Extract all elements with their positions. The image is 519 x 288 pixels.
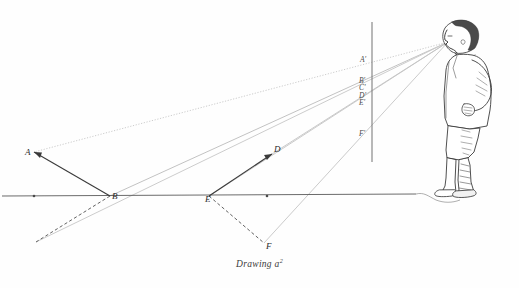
arrowhead-A [34, 152, 42, 158]
label-Fprime: F' [358, 129, 366, 138]
boy-shoe-back [453, 190, 477, 198]
segment-E-D [209, 154, 272, 196]
segment-B-C-dashed [36, 196, 110, 242]
label-E: E [204, 194, 211, 204]
boy-leg-front [442, 158, 456, 195]
boy-jacket [444, 54, 491, 129]
ground-dot-right [266, 195, 269, 198]
sight-ray-C [36, 42, 448, 242]
figure-caption: Drawing a2 [0, 258, 519, 269]
sight-ray-B [110, 42, 448, 196]
perspective-diagram-figure: ABDEF A'B'C'D'E'F' Drawing a2 [0, 0, 519, 288]
segment-A-B [34, 152, 110, 196]
boy-breeches [446, 126, 480, 160]
label-B: B [112, 191, 118, 201]
sight-ray-group [34, 42, 448, 243]
boy-hand [462, 104, 475, 116]
figure-caption-text: Drawing a [236, 259, 280, 269]
label-Eprime: E' [358, 98, 366, 107]
segment-E-F-dashed [209, 196, 264, 243]
label-Aprime: A' [359, 55, 367, 64]
label-group-picture-plane: A'B'C'D'E'F' [358, 55, 367, 138]
label-D: D [273, 144, 281, 154]
ground-dot-left [33, 195, 36, 198]
sight-ray-A [34, 42, 448, 152]
figure-caption-superscript: 2 [280, 258, 283, 264]
label-group-ground: ABDEF [24, 144, 281, 251]
label-F: F [265, 241, 272, 251]
label-A: A [24, 147, 31, 157]
diagram-canvas: ABDEF A'B'C'D'E'F' [0, 0, 519, 288]
